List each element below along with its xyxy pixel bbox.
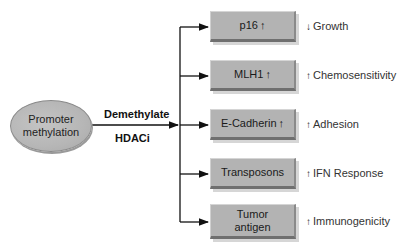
down-arrow-icon: ↓ [306,21,311,32]
up-arrow-icon: ↑ [306,119,311,130]
target-box-transposons: Transposons [210,158,296,189]
target-label: p16 [240,19,258,32]
outcome-growth: ↓Growth [306,20,348,32]
target-label: E-Cadherin [221,117,277,130]
source-label-line2: methylation [23,126,79,139]
source-label-line1: Promoter [23,113,79,126]
target-box-mlh1: MLH1 ↑ [210,60,296,91]
outcome-label: Chemosensitivity [313,69,396,81]
up-arrow-icon: ↑ [260,19,266,32]
target-box-e-cadherin: E-Cadherin ↑ [210,109,296,140]
promoter-methylation-node: Promoter methylation [10,100,92,152]
target-box-tumor-antigen: Tumor antigen [210,204,296,239]
up-arrow-icon: ↑ [306,70,311,81]
outcome-label: Immunogenicity [313,215,390,227]
outcome-label: Growth [313,20,348,32]
outcome-label: IFN Response [313,167,383,179]
up-arrow-icon: ↑ [279,117,285,130]
outcome-chemosensitivity: ↑Chemosensitivity [306,69,396,81]
demethylate-label: Demethylate [104,108,169,120]
target-box-p16: p16 ↑ [210,11,296,42]
target-label: MLH1 [234,68,263,81]
target-label: Transposons [221,166,284,179]
up-arrow-icon: ↑ [306,168,311,179]
hdaci-label: HDACi [115,132,150,144]
up-arrow-icon: ↑ [265,68,271,81]
outcome-adhesion: ↑Adhesion [306,118,359,130]
outcome-label: Adhesion [313,118,359,130]
up-arrow-icon: ↑ [306,216,311,227]
outcome-ifn-response: ↑IFN Response [306,167,383,179]
target-label: Tumor antigen [225,208,280,234]
outcome-immunogenicity: ↑Immunogenicity [306,215,390,227]
